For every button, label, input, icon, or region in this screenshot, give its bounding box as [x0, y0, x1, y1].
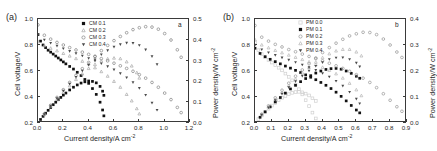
legend-marker-icon [80, 20, 87, 27]
y-tick-right [186, 39, 189, 40]
x-tick [88, 119, 89, 122]
x-tick-label: 0.6 [109, 124, 118, 131]
x-tick [288, 119, 289, 122]
legend-item-cm-0.2: CM 0.2 [80, 27, 106, 33]
y-tick-right [186, 80, 189, 81]
y-tick-label-left: 0.2 [241, 119, 250, 126]
legend-label: CM 0.2 [89, 27, 106, 33]
panel-a-yaxis-right-sup: -2 [210, 48, 216, 53]
panel-a-yaxis-left-title: Cell voltage/V [13, 52, 22, 96]
panel-b-xaxis-title: Current density/A cm-2 [281, 133, 352, 143]
y-tick-left [37, 44, 40, 45]
legend-marker-icon [297, 47, 304, 54]
y-tick-label-left: 1.0 [241, 15, 250, 22]
series-cm-0.1-right [37, 80, 105, 122]
x-tick-label: 0.3 [300, 124, 309, 131]
panel-b-data-layer [255, 19, 406, 122]
panel-b-xaxis-title-sup: -2 [348, 133, 353, 139]
y-tick-right [186, 122, 189, 123]
legend-item-cm-0.4: CM 0.4 [80, 41, 106, 47]
y-tick-right [403, 18, 406, 19]
x-tick-label: 1.2 [185, 124, 194, 131]
panel-b-plot-area [254, 18, 406, 122]
series-cm-0.2-right [37, 57, 141, 122]
y-tick-label-right: 0.3 [193, 56, 202, 63]
panel-b-yaxis-right-text: Power density/W cm [428, 52, 437, 118]
panel-a-inner-tag: a [178, 21, 182, 28]
x-tick-label: 0.4 [83, 124, 92, 131]
x-tick-label: 0.8 [134, 124, 143, 131]
y-tick-label-left: 0.8 [241, 41, 250, 48]
legend-label: PM 0.4 [306, 47, 322, 53]
x-tick-label: 0.5 [334, 124, 343, 131]
y-tick-label-left: 0.4 [241, 93, 250, 100]
panel-b-xaxis-title-text: Current density/A cm [281, 134, 348, 143]
y-tick-left [254, 18, 257, 19]
series-cm-0.3-right [37, 25, 182, 122]
legend-label: CM 0.1 [89, 20, 106, 26]
y-tick-left [254, 96, 257, 97]
legend-item-pm-0.4: PM 0.4 [297, 47, 322, 53]
legend-marker-icon [297, 33, 304, 40]
panel-b-yaxis-right-title: Power density/W cm-2 [427, 48, 437, 118]
legend-label: PM 0.0 [306, 19, 322, 25]
y-tick-label-right: 0.1 [410, 93, 419, 100]
panel-b-legend: PM 0.0PM 0.1PM 0.2PM 0.3PM 0.4 [297, 19, 322, 54]
y-tick-label-right: 0.1 [193, 98, 202, 105]
y-tick-label-right: 0.5 [193, 15, 202, 22]
y-tick-label-right: 0.2 [410, 67, 419, 74]
panel-a-plot-area [37, 18, 189, 122]
x-tick-label: 0.1 [267, 124, 276, 131]
y-tick-right [186, 60, 189, 61]
panel-b-tag: (b) [223, 12, 234, 22]
legend-label: CM 0.3 [89, 34, 106, 40]
y-tick-label-right: 0.0 [410, 119, 419, 126]
panel-a-tag: (a) [6, 12, 17, 22]
x-tick [389, 119, 390, 122]
y-tick-right [403, 44, 406, 45]
panel-a-legend: CM 0.1CM 0.2CM 0.3CM 0.4 [80, 20, 106, 48]
legend-item-cm-0.3: CM 0.3 [80, 34, 106, 40]
y-tick-left [37, 122, 40, 123]
x-tick [189, 119, 190, 122]
y-tick-right [403, 70, 406, 71]
legend-label: PM 0.3 [306, 40, 322, 46]
y-tick-label-left: 0.8 [24, 41, 33, 48]
y-tick-left [37, 96, 40, 97]
panel-b-inner-tag: b [395, 21, 399, 28]
y-tick-label-right: 0.2 [193, 77, 202, 84]
y-tick-left [37, 18, 40, 19]
x-tick-label: 0.2 [58, 124, 67, 131]
legend-marker-icon [297, 19, 304, 26]
panel-b-yaxis-right-sup: -2 [427, 48, 433, 53]
x-tick [372, 119, 373, 122]
x-tick [305, 119, 306, 122]
y-tick-left [37, 70, 40, 71]
legend-label: PM 0.2 [306, 33, 322, 39]
x-tick [113, 119, 114, 122]
x-tick [338, 119, 339, 122]
y-tick-left [254, 122, 257, 123]
x-tick-label: 0.6 [351, 124, 360, 131]
y-tick-right [403, 122, 406, 123]
y-tick-label-left: 0.2 [24, 119, 33, 126]
y-tick-label-left: 0.6 [241, 67, 250, 74]
y-tick-label-left: 0.4 [24, 93, 33, 100]
x-tick [62, 119, 63, 122]
legend-marker-icon [80, 34, 87, 41]
legend-label: CM 0.4 [89, 41, 106, 47]
y-tick-label-right: 0.3 [410, 41, 419, 48]
series-pm-0.4-right [254, 56, 361, 122]
legend-item-cm-0.1: CM 0.1 [80, 20, 106, 26]
y-tick-label-left: 1.0 [24, 15, 33, 22]
legend-item-pm-0.3: PM 0.3 [297, 40, 322, 46]
x-tick [271, 119, 272, 122]
y-tick-label-right: 0.4 [193, 35, 202, 42]
y-tick-right [186, 18, 189, 19]
panel-a-xaxis-title-sup: -2 [131, 133, 136, 139]
legend-item-pm-0.1: PM 0.1 [297, 26, 322, 32]
y-tick-right [403, 96, 406, 97]
legend-label: PM 0.1 [306, 26, 322, 32]
x-tick [138, 119, 139, 122]
